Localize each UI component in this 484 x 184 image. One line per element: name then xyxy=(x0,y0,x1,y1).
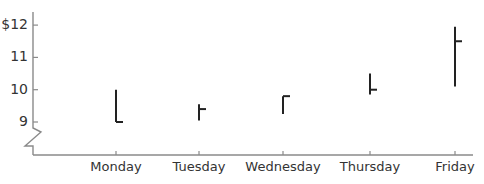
ohlc-bar-wednesday xyxy=(283,96,290,114)
ohlc-bar-monday xyxy=(116,90,123,122)
x-tick-label-tuesday: Tuesday xyxy=(173,159,226,174)
x-tick-label-thursday: Thursday xyxy=(340,159,400,174)
ohlc-bars xyxy=(116,27,462,122)
y-ticks xyxy=(33,25,38,122)
x-tick-label-wednesday: Wednesday xyxy=(245,159,320,174)
ohlc-bar-friday xyxy=(455,27,462,87)
x-tick-label-monday: Monday xyxy=(90,159,141,174)
y-tick-label: 11 xyxy=(0,48,28,64)
y-tick-label: 10 xyxy=(0,81,28,97)
ohlc-bar-thursday xyxy=(370,74,377,95)
ohlc-chart xyxy=(0,0,484,184)
y-tick-label: 9 xyxy=(0,113,28,129)
x-tick-label-friday: Friday xyxy=(435,159,474,174)
ohlc-bar-tuesday xyxy=(199,104,206,120)
y-tick-label: $12 xyxy=(0,16,28,32)
